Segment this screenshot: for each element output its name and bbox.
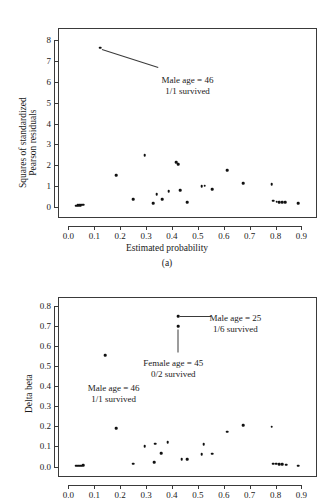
annotation-line-1: Male age = 25 xyxy=(210,313,262,324)
x-axis-spine xyxy=(68,226,301,227)
annotation-line-1: Male age = 46 xyxy=(88,383,140,394)
x-axis-tick-label: 0.3 xyxy=(140,232,151,241)
data-point xyxy=(186,201,189,204)
y-axis-tick-label: 0 xyxy=(47,202,52,211)
y-axis-tick-label: 2 xyxy=(47,161,52,170)
data-point xyxy=(297,464,300,467)
data-point xyxy=(115,427,118,430)
y-axis-title: Delta beta xyxy=(24,374,34,413)
data-point xyxy=(179,189,182,192)
chart-panel-a: 0123456780.00.10.20.30.40.50.60.70.80.9M… xyxy=(0,0,334,268)
x-axis-tick-label: 0.8 xyxy=(270,491,281,500)
data-point xyxy=(143,445,146,448)
data-point xyxy=(226,430,229,433)
y-axis-tick xyxy=(54,467,58,468)
y-axis-tick-label: 0.3 xyxy=(40,402,51,411)
data-point xyxy=(177,325,180,328)
x-axis-tick-label: 0.1 xyxy=(89,232,100,241)
y-axis-title-line-1: Squares of standardized xyxy=(18,97,28,188)
x-axis-tick xyxy=(301,226,302,230)
x-axis-tick-label: 0.9 xyxy=(296,232,307,241)
data-point xyxy=(203,443,206,446)
data-point xyxy=(186,458,189,461)
data-point xyxy=(152,202,155,205)
x-axis-tick-label: 0.3 xyxy=(140,491,151,500)
y-axis-spine xyxy=(54,40,55,206)
x-axis-tick-label: 0.2 xyxy=(115,491,126,500)
annotation-line-1: Male age = 46 xyxy=(162,75,214,86)
y-axis-tick-label: 8 xyxy=(47,36,52,45)
data-point xyxy=(281,463,284,466)
y-axis-spine xyxy=(54,306,55,467)
annotation-leader-male-25 xyxy=(180,316,211,317)
x-axis-tick-label: 0.1 xyxy=(89,491,100,500)
annotation-line-2: 1/1 survived xyxy=(88,394,140,405)
x-axis-tick-label: 0.5 xyxy=(192,232,203,241)
x-axis-tick-label: 0.9 xyxy=(296,491,307,500)
annotation-line-2: 1/1 survived xyxy=(162,86,214,97)
data-point xyxy=(270,183,273,186)
y-axis-tick-label: 0.7 xyxy=(40,322,51,331)
x-axis-tick-label: 0.2 xyxy=(115,232,126,241)
data-point xyxy=(132,198,135,201)
x-axis-tick-label: 0.8 xyxy=(270,232,281,241)
data-point xyxy=(272,199,275,202)
y-axis-title-line-2: Pearson residuals xyxy=(28,97,38,188)
annotation-line-2: 0/2 survived xyxy=(143,369,203,380)
y-axis-title: Squares of standardizedPearson residuals xyxy=(18,97,38,188)
data-point xyxy=(181,458,184,461)
y-axis-tick xyxy=(54,207,58,208)
data-point xyxy=(200,453,203,456)
y-axis-tick-label: 6 xyxy=(47,77,52,86)
data-point xyxy=(104,354,107,357)
data-point xyxy=(285,463,288,466)
x-axis-tick-label: 0.7 xyxy=(244,491,255,500)
data-point xyxy=(166,441,169,444)
data-point xyxy=(211,452,214,455)
data-point xyxy=(154,442,157,445)
data-point xyxy=(204,185,207,188)
x-axis-spine xyxy=(68,485,301,486)
x-axis-tick-label: 0.4 xyxy=(166,491,177,500)
x-axis-tick-label: 0.6 xyxy=(218,232,229,241)
figure-container: 0123456780.00.10.20.30.40.50.60.70.80.9M… xyxy=(0,0,334,503)
y-axis-tick-label: 0.8 xyxy=(40,302,51,311)
data-point xyxy=(161,198,164,201)
annotation-leader-female-45 xyxy=(177,330,178,353)
x-axis-tick-label: 0.0 xyxy=(63,491,74,500)
y-axis-tick-label: 4 xyxy=(47,119,52,128)
y-axis-tick-label: 0.0 xyxy=(40,462,51,471)
data-point xyxy=(132,462,135,465)
x-axis-tick-label: 0.4 xyxy=(166,232,177,241)
data-point xyxy=(226,169,229,172)
data-point xyxy=(297,202,300,205)
x-axis-tick xyxy=(301,485,302,489)
annotation-male-46: Male age = 461/1 survived xyxy=(162,75,214,97)
y-axis-tick-label: 7 xyxy=(47,57,52,66)
x-axis-tick-label: 0.5 xyxy=(192,491,203,500)
data-point xyxy=(242,182,245,185)
chart-panel-b: 0.00.10.20.30.40.50.60.70.80.00.10.20.30… xyxy=(0,268,334,503)
panel-a-caption: (a) xyxy=(0,258,334,268)
y-axis-tick-label: 0.4 xyxy=(40,382,51,391)
y-axis-tick-label: 0.2 xyxy=(40,422,51,431)
x-axis-tick-label: 0.6 xyxy=(218,491,229,500)
y-axis-tick-label: 1 xyxy=(47,181,52,190)
y-axis-tick-label: 3 xyxy=(47,140,52,149)
data-point xyxy=(284,201,287,204)
x-axis-tick-label: 0.0 xyxy=(63,232,74,241)
data-point xyxy=(153,461,156,464)
data-point xyxy=(143,154,146,157)
annotation-male-46: Male age = 461/1 survived xyxy=(88,383,140,405)
data-point xyxy=(115,174,118,177)
annotation-line-2: 1/6 survived xyxy=(210,324,262,335)
data-point xyxy=(82,203,85,206)
data-point xyxy=(82,464,85,467)
plot-area-a xyxy=(58,28,317,218)
x-axis-title-a: Estimated probability xyxy=(0,243,334,253)
y-axis-tick-label: 0.5 xyxy=(40,362,51,371)
data-point xyxy=(160,452,163,455)
data-point xyxy=(270,426,273,429)
y-axis-tick-label: 0.6 xyxy=(40,342,51,351)
y-axis-tick-label: 0.1 xyxy=(40,442,51,451)
